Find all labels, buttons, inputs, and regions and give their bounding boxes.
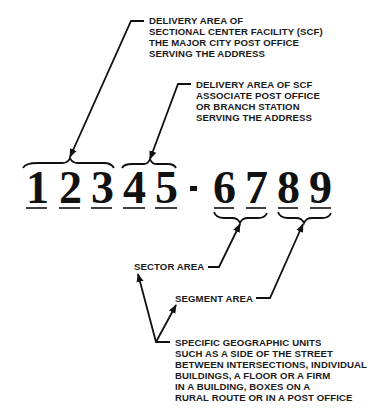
associate-annotation: DELIVERY AREA OF SCF ASSOCIATE POST OFFI… [150, 79, 320, 159]
units-annotation: SPECIFIC GEOGRAPHIC UNITS SUCH AS A SIDE… [175, 337, 367, 403]
associate-leader-arrow [150, 84, 191, 159]
units-to-segment-arrow [156, 305, 176, 342]
zip-separator-dash [190, 186, 197, 191]
units-line-4: BUILDINGS, A FLOOR OR A FIRM [175, 370, 330, 381]
units-to-sector-arrow [138, 274, 170, 342]
zip-code-diagram: DELIVERY AREA OF SECTIONAL CENTER FACILI… [0, 0, 376, 414]
sector-leader-arrow [208, 224, 240, 267]
segment-leader-arrow [256, 224, 303, 298]
associate-line-1: DELIVERY AREA OF SCF [196, 79, 312, 90]
digit-6: 6 [213, 162, 236, 213]
associate-line-4: SERVING THE ADDRESS [196, 112, 312, 123]
digit-5: 5 [155, 162, 178, 213]
digit-3: 3 [91, 162, 114, 213]
units-line-2: SUCH AS A SIDE OF THE STREET [175, 348, 333, 359]
scf-line-3: THE MAJOR CITY POST OFFICE [149, 37, 300, 48]
scf-line-4: SERVING THE ADDRESS [149, 48, 265, 59]
brace-segment-digits [278, 212, 331, 223]
digit-7: 7 [245, 162, 268, 213]
units-line-6: RURAL ROUTE OR IN A POST OFFICE [175, 392, 353, 403]
units-line-1: SPECIFIC GEOGRAPHIC UNITS [175, 337, 322, 348]
associate-line-3: OR BRANCH STATION [196, 101, 300, 112]
brace-sector-digits [214, 212, 267, 223]
units-line-5: IN A BUILDING, BOXES ON A [175, 381, 310, 392]
associate-line-2: ASSOCIATE POST OFFICE [196, 90, 320, 101]
digit-8: 8 [277, 162, 300, 213]
scf-line-1: DELIVERY AREA OF [149, 15, 243, 26]
digit-1: 1 [26, 162, 49, 213]
scf-line-2: SECTIONAL CENTER FACILITY (SCF) [149, 26, 323, 37]
sector-area-label: SECTOR AREA [134, 261, 204, 272]
zip-digits: 1 2 3 4 5 6 7 8 9 [26, 162, 332, 213]
scf-leader-arrow [70, 21, 144, 157]
units-line-3: BETWEEN INTERSECTIONS, INDIVIDUAL [175, 359, 367, 370]
segment-area-label: SEGMENT AREA [175, 293, 253, 304]
digit-4: 4 [123, 162, 146, 213]
digit-9: 9 [309, 162, 332, 213]
digit-2: 2 [59, 162, 82, 213]
